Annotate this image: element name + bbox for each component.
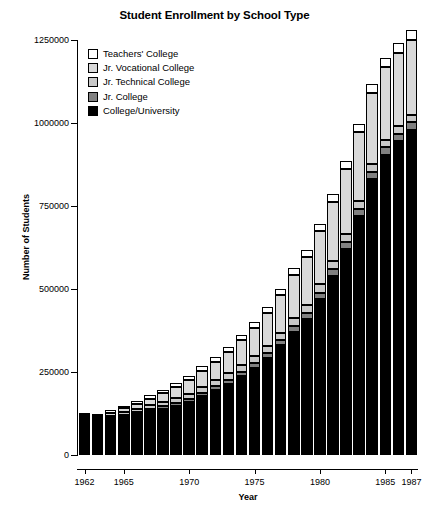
bar-1984 (366, 40, 378, 455)
bar-segment (275, 345, 287, 455)
bar-1985 (380, 40, 392, 455)
legend-swatch-icon (88, 63, 98, 73)
y-axis-tick-label-wrap: 0 (0, 451, 69, 460)
bar-segment (249, 322, 261, 328)
bar-segment (223, 352, 235, 373)
bar-segment (380, 58, 392, 67)
bar-1982 (340, 40, 352, 455)
bar-segment (393, 126, 405, 134)
x-axis-tick-label: 1987 (389, 478, 429, 487)
bar-segment (210, 380, 222, 386)
bar-segment (118, 416, 130, 455)
bar-1978 (288, 40, 300, 455)
bar-segment (236, 340, 248, 365)
bar-segment (79, 415, 91, 417)
bar-segment (353, 132, 365, 200)
x-axis-tick (411, 469, 412, 474)
bar-segment (301, 257, 313, 305)
x-axis-title: Year (78, 492, 418, 502)
y-axis-tick-label-wrap: 1250000 (0, 36, 69, 45)
legend-label: Jr. Technical College (103, 77, 190, 87)
bar-segment (144, 399, 156, 406)
bar-segment (236, 335, 248, 341)
bar-segment (288, 268, 300, 275)
bar-segment (183, 394, 195, 399)
bar-segment (105, 413, 117, 416)
bar-segment (105, 410, 117, 412)
bar-segment (105, 418, 117, 455)
legend-swatch-icon (88, 92, 98, 102)
bar-segment (340, 169, 352, 233)
bar-segment (183, 380, 195, 393)
bar-segment (144, 409, 156, 411)
bar-segment (196, 387, 208, 393)
bar-segment (380, 140, 392, 148)
x-axis-tick (189, 469, 190, 474)
bar-1981 (327, 40, 339, 455)
bar-segment (393, 134, 405, 141)
bar-segment (249, 363, 261, 368)
y-axis-tick-label-wrap: 250000 (0, 368, 69, 377)
x-axis-tick-label: 1970 (167, 478, 211, 487)
bar-segment (380, 147, 392, 154)
bar-segment (183, 402, 195, 455)
bar-segment (170, 383, 182, 387)
bar-segment (196, 366, 208, 371)
bar-segment (288, 318, 300, 326)
bar-segment (340, 242, 352, 249)
bar-1975 (249, 40, 261, 455)
bar-segment (144, 405, 156, 409)
bar-segment (157, 409, 169, 455)
bar-segment (327, 269, 339, 276)
x-axis-tick (124, 469, 125, 474)
bar-segment (249, 368, 261, 455)
bar-segment (366, 93, 378, 164)
bar-segment (157, 402, 169, 406)
bar-segment (406, 122, 418, 129)
bar-segment (393, 43, 405, 53)
x-axis-tick (385, 469, 386, 474)
bar-segment (327, 194, 339, 202)
bar-segment (183, 376, 195, 380)
bar-1976 (262, 40, 274, 455)
legend-item: Teachers' College (88, 47, 208, 61)
y-axis-tick-label-wrap: 500000 (0, 285, 69, 294)
x-axis-tick (255, 469, 256, 474)
x-axis-tick (320, 469, 321, 474)
bar-segment (144, 395, 156, 398)
bar-1987 (406, 40, 418, 455)
bar-segment (170, 398, 182, 403)
bar-1980 (314, 40, 326, 455)
legend-item: Jr. Technical College (88, 75, 208, 89)
bar-segment (196, 396, 208, 455)
legend-swatch-icon (88, 106, 98, 116)
legend-label: Jr. Vocational College (103, 63, 194, 73)
bar-1973 (223, 40, 235, 455)
bar-segment (262, 346, 274, 353)
legend-label: Teachers' College (103, 49, 178, 59)
bar-segment (340, 234, 352, 242)
bar-segment (275, 295, 287, 332)
bar-segment (92, 416, 104, 418)
x-axis-tick-label: 1962 (63, 478, 107, 487)
bar-segment (353, 124, 365, 133)
bar-segment (223, 384, 235, 455)
bar-segment (131, 401, 143, 404)
bar-segment (275, 289, 287, 296)
x-axis-tick-label: 1980 (298, 478, 342, 487)
bar-1974 (236, 40, 248, 455)
bar-segment (157, 406, 169, 408)
x-axis-tick (85, 469, 86, 474)
bar-segment (288, 326, 300, 332)
y-axis-tick-label: 500000 (9, 285, 69, 294)
bar-segment (327, 276, 339, 455)
y-axis-tick (71, 289, 77, 290)
bar-segment (170, 406, 182, 455)
bar-segment (210, 390, 222, 455)
bar-segment (157, 390, 169, 394)
bar-segment (262, 353, 274, 358)
bar-segment (340, 249, 352, 455)
x-axis-tick-label: 1975 (233, 478, 277, 487)
x-axis-line (77, 469, 418, 470)
bar-segment (183, 399, 195, 402)
